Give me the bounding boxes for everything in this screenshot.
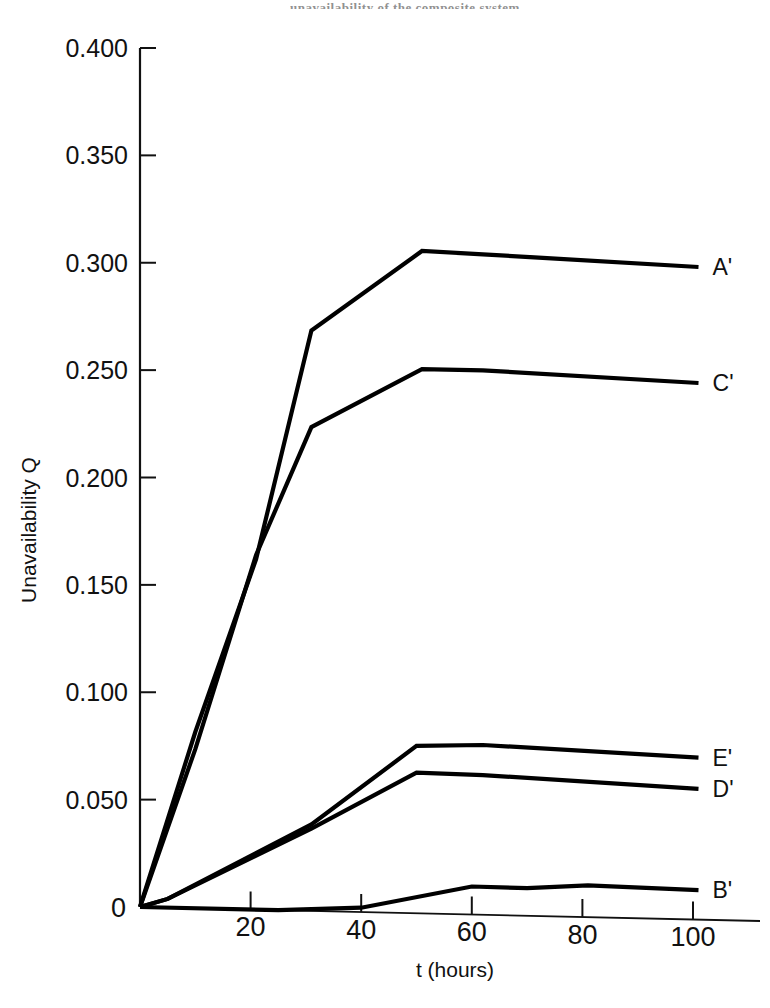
series-label-Eprime: E' xyxy=(713,745,733,771)
x-tick-label: 100 xyxy=(670,922,715,952)
y-tick-label: 0.400 xyxy=(65,34,128,62)
x-tick-label: 40 xyxy=(346,915,376,945)
x-axis-title: t (hours) xyxy=(416,958,494,981)
y-tick-label: 0.200 xyxy=(65,464,128,492)
chart-figure: 00.0500.1000.1500.2000.2500.3000.3500.40… xyxy=(0,0,770,1008)
series-label-Dprime: D' xyxy=(713,776,734,802)
curve-Cprime xyxy=(140,369,699,907)
y-tick-label: 0 xyxy=(111,893,126,923)
y-axis-title: Unavailability Q xyxy=(17,457,40,603)
y-tick-marks xyxy=(140,48,156,800)
series-label-Bprime: B' xyxy=(713,877,733,903)
data-curves xyxy=(140,251,699,910)
x-tick-label: 60 xyxy=(457,917,487,947)
y-tick-label: 0.150 xyxy=(65,571,128,599)
curve-Eprime xyxy=(140,745,699,907)
y-tick-label: 0.250 xyxy=(65,356,128,384)
series-labels: A'C'E'D'B' xyxy=(713,254,734,903)
chart-axes xyxy=(140,48,760,921)
y-tick-labels: 00.0500.1000.1500.2000.2500.3000.3500.40… xyxy=(65,34,128,923)
y-tick-label: 0.350 xyxy=(65,141,128,169)
x-tick-label: 80 xyxy=(567,920,597,950)
curve-Aprime xyxy=(140,251,699,907)
y-tick-label: 0.300 xyxy=(65,249,128,277)
curve-Bprime xyxy=(140,885,699,910)
x-tick-label: 20 xyxy=(236,912,266,942)
series-label-Aprime: A' xyxy=(713,254,733,280)
y-tick-label: 0.050 xyxy=(65,786,128,814)
series-label-Cprime: C' xyxy=(713,370,734,396)
y-tick-label: 0.100 xyxy=(65,678,128,706)
